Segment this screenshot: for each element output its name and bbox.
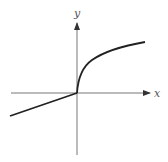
function-graph: x y <box>0 0 168 162</box>
x-axis-label: x <box>154 87 161 100</box>
y-axis-label: y <box>73 7 81 20</box>
